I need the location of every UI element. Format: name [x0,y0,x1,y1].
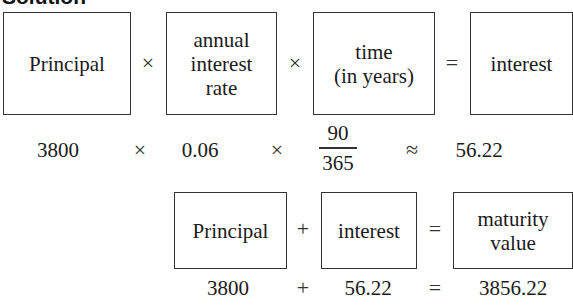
principal-label: Principal [193,219,269,243]
principal-label: Principal [29,52,105,76]
time-in-years-box: time (in years) [313,12,435,115]
multiply-operator: × [134,137,146,163]
interest-box: interest [321,192,417,269]
equals-operator: = [429,216,441,242]
time-in-years-label: time (in years) [334,40,414,88]
plus-operator: + [297,275,309,301]
equals-operator: = [446,50,458,76]
principal-box: Principal [3,12,131,115]
interest-label: interest [338,219,400,243]
approx-operator: ≈ [406,137,418,163]
time-fraction: 90 365 [319,122,357,174]
interest-box: interest [470,12,573,115]
multiply-operator: × [271,137,283,163]
interest-value: 56.22 [455,138,502,163]
time-denominator: 365 [322,152,354,174]
maturity-value-box: maturity value [453,192,573,269]
principal-value: 3800 [207,276,249,301]
multiply-operator: × [289,50,301,76]
rate-value: 0.06 [182,138,219,163]
plus-operator: + [297,216,309,242]
annual-interest-rate-label: annual interest rate [191,28,253,100]
interest-value: 56.22 [344,276,391,301]
multiply-operator: × [142,50,154,76]
annual-interest-rate-box: annual interest rate [166,12,277,115]
interest-label: interest [491,52,553,76]
principal-value: 3800 [37,138,79,163]
principal-box: Principal [174,192,287,269]
time-numerator: 90 [328,122,349,144]
maturity-value: 3856.22 [479,276,547,301]
equals-operator: = [429,275,441,301]
maturity-value-label: maturity value [477,207,548,255]
solution-heading: Solution [2,0,86,9]
fraction-bar [319,147,357,149]
